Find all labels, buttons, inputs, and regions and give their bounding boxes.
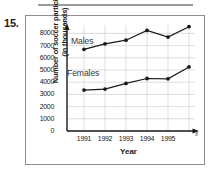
series-males <box>82 25 191 51</box>
x-tick-label-1995: 1995 <box>156 135 180 142</box>
data-point <box>82 47 86 51</box>
data-point <box>103 42 107 46</box>
gridlines-vertical <box>84 25 189 131</box>
page-root: 15. Number of soccer participants (in th… <box>0 0 210 178</box>
series-label-females: Females <box>67 68 99 78</box>
data-point <box>145 29 149 33</box>
item-number: 15. <box>4 17 19 29</box>
data-point <box>187 65 191 69</box>
y-tick-label-0: 0 <box>28 127 54 134</box>
y-axis-letter: y <box>63 17 66 24</box>
series-label-males: Males <box>71 36 93 46</box>
y-tick-label-8000: 8000 <box>28 29 54 36</box>
data-point <box>166 77 170 81</box>
y-tick-label-1000: 1000 <box>28 115 54 122</box>
y-tick-label-4000: 4000 <box>28 78 54 85</box>
y-tick-label-5000: 5000 <box>28 66 54 73</box>
y-tick-label-6000: 6000 <box>28 54 54 61</box>
data-point <box>145 77 149 81</box>
y-tick-label-3000: 3000 <box>28 90 54 97</box>
x-axis-line <box>67 128 199 133</box>
y-tick-label-7000: 7000 <box>28 42 54 49</box>
data-point <box>166 35 170 39</box>
y-tick-label-2000: 2000 <box>28 103 54 110</box>
data-point <box>187 25 191 29</box>
data-point <box>124 82 128 86</box>
x-axis-letter: x <box>195 130 198 137</box>
plot-area: y x Males Females <box>57 19 203 145</box>
data-point <box>103 87 107 91</box>
data-point <box>124 38 128 42</box>
data-point <box>82 88 86 92</box>
x-axis-title: Year <box>81 147 176 156</box>
figure-container: Number of soccer participants (in thousa… <box>25 15 205 165</box>
